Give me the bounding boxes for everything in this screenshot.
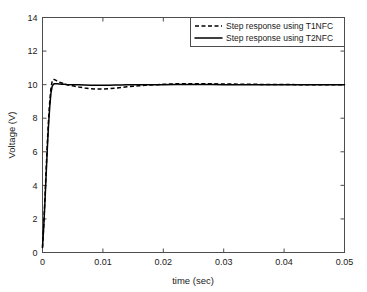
y-tick-label: 6 bbox=[32, 147, 37, 157]
legend-label-t1nfc: Step response using T1NFC bbox=[226, 21, 333, 31]
y-tick-label: 10 bbox=[27, 80, 37, 90]
y-tick-label: 14 bbox=[27, 13, 37, 23]
chart-figure: 00.010.020.030.040.05 02468101214 time (… bbox=[0, 0, 367, 292]
x-tick-label: 0 bbox=[40, 257, 45, 267]
step-response-plot: 00.010.020.030.040.05 02468101214 time (… bbox=[0, 0, 367, 292]
y-tick-label: 0 bbox=[32, 248, 37, 258]
y-tick-label: 8 bbox=[32, 113, 37, 123]
x-axis-label: time (sec) bbox=[172, 275, 214, 286]
y-tick-label: 12 bbox=[27, 46, 37, 56]
y-tick-label: 2 bbox=[32, 214, 37, 224]
y-tick-label: 4 bbox=[32, 181, 37, 191]
x-tick-label: 0.01 bbox=[94, 257, 112, 267]
legend-label-t2nfc: Step response using T2NFC bbox=[226, 33, 333, 43]
x-tick-label: 0.02 bbox=[155, 257, 173, 267]
x-tick-label: 0.03 bbox=[215, 257, 233, 267]
chart-legend: Step response using T1NFC Step response … bbox=[191, 18, 345, 47]
x-tick-label: 0.05 bbox=[336, 257, 354, 267]
x-tick-label: 0.04 bbox=[275, 257, 293, 267]
y-axis-label: Voltage (V) bbox=[6, 112, 17, 159]
